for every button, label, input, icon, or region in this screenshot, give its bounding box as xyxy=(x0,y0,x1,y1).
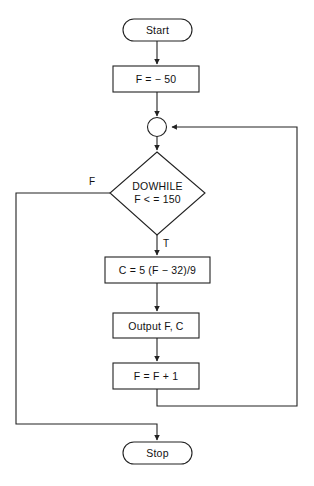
node-stop-shape xyxy=(123,442,192,464)
flowchart-canvas: Start F = − 50 DOWHILE F < = 150 C = 5 (… xyxy=(0,0,314,486)
node-junction-shape xyxy=(148,118,167,137)
edge-label-false: F xyxy=(89,176,95,187)
node-convert-shape xyxy=(105,257,210,283)
flowchart-svg xyxy=(0,0,314,486)
node-decision-shape xyxy=(110,152,205,235)
node-increment-shape xyxy=(113,363,199,389)
node-start-shape xyxy=(123,19,192,41)
node-output-shape xyxy=(113,313,199,338)
edge-label-true: T xyxy=(163,238,169,249)
node-init-shape xyxy=(113,66,199,92)
